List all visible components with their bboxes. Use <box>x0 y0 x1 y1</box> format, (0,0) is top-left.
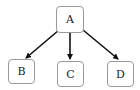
node-a-label: A <box>66 13 74 26</box>
edge-a-b <box>26 30 59 58</box>
edge-a-d <box>83 30 118 59</box>
node-c: C <box>57 61 84 87</box>
node-b: B <box>8 59 35 84</box>
node-d: D <box>107 61 134 87</box>
node-b-label: B <box>17 65 25 78</box>
node-c-label: C <box>66 68 74 81</box>
node-d-label: D <box>116 68 125 81</box>
node-a: A <box>56 6 84 33</box>
